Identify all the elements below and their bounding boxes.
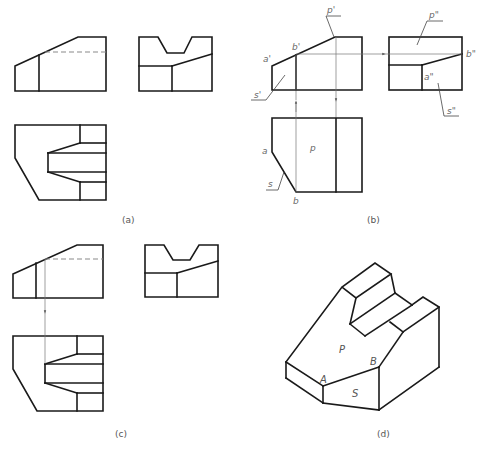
isometric-view	[286, 263, 439, 410]
label-point-B: B	[370, 356, 377, 367]
caption-b: (b)	[367, 215, 380, 225]
front-view-c	[13, 245, 103, 298]
top-view-a	[15, 125, 106, 200]
caption-a: (a)	[122, 215, 135, 225]
label-b: b	[293, 196, 299, 206]
labels-b: p' b' a' s' p" b" a" s" p a s b	[254, 5, 476, 206]
side-view-c	[145, 245, 218, 297]
side-view-b	[389, 37, 462, 90]
top-view-b	[272, 118, 362, 192]
label-a: a	[262, 146, 268, 156]
technical-drawing: p' b' a' s' p" b" a" s" p a s b	[0, 0, 490, 449]
front-view-a	[15, 37, 106, 91]
labels-d: P B A S	[319, 344, 377, 399]
label-p: p	[309, 143, 316, 153]
label-p-double-prime: p"	[428, 10, 439, 20]
panel-a	[15, 37, 212, 200]
label-point-A: A	[319, 374, 327, 385]
front-view-b	[272, 37, 362, 90]
top-view-c	[13, 336, 103, 411]
label-b-prime: b'	[292, 42, 300, 52]
label-a-prime: a'	[263, 54, 271, 64]
label-p-prime: p'	[326, 5, 335, 15]
panel-d: P B A S	[286, 263, 439, 410]
label-s-double-prime: s"	[447, 106, 456, 116]
caption-c: (c)	[115, 429, 127, 439]
caption-d: (d)	[377, 429, 390, 439]
panel-c	[13, 245, 218, 411]
side-view-a	[139, 37, 212, 91]
label-face-P: P	[339, 344, 346, 355]
leaders-b	[251, 16, 459, 190]
label-s-prime: s'	[254, 90, 261, 100]
label-a-double-prime: a"	[424, 72, 434, 82]
panel-b: p' b' a' s' p" b" a" s" p a s b	[251, 5, 476, 206]
label-s: s	[268, 179, 273, 189]
label-b-double-prime: b"	[466, 49, 476, 59]
label-face-S: S	[352, 388, 359, 399]
